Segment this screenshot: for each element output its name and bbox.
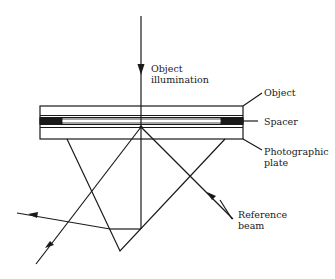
object-label: Object (264, 87, 296, 98)
arrow-down-icon (138, 64, 145, 75)
reference-leader (220, 200, 232, 219)
reference-beam-label: Reference beam (238, 209, 287, 231)
spacer-right-block (221, 118, 243, 124)
reference-beam (141, 127, 233, 219)
holography-diagram (0, 0, 335, 279)
object-leader (243, 93, 262, 106)
label-line: illumination (151, 74, 209, 85)
label-line: Reference (238, 209, 287, 220)
object-illumination-label: Object illumination (151, 63, 209, 85)
focus-point (139, 125, 142, 128)
outgoing-ray-left (17, 213, 110, 229)
reconstruction-v-path (67, 139, 225, 251)
spacer-label: Spacer (264, 116, 298, 127)
spacer-left-block (40, 118, 62, 124)
label-line: beam (238, 220, 287, 231)
photographic-plate-label: Photographic plate (264, 146, 329, 168)
label-line: plate (264, 157, 329, 168)
label-line: Object (151, 63, 209, 74)
plate-leader (243, 139, 262, 150)
arrow-up-left-icon (207, 192, 216, 200)
label-line: Photographic (264, 146, 329, 157)
